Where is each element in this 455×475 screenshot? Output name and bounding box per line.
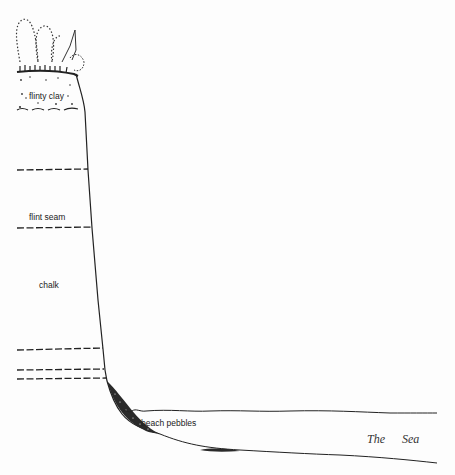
- flint-band-4: [17, 369, 104, 370]
- label-beach-pebbles: beach pebbles: [141, 418, 196, 428]
- cliff-face: [76, 74, 160, 434]
- label-the: The: [367, 432, 385, 447]
- label-chalk: chalk: [39, 280, 59, 290]
- label-sea: Sea: [402, 432, 419, 447]
- flint-band-3: [17, 348, 103, 350]
- label-flint-seam: flint seam: [29, 212, 65, 222]
- flint-seam-line: [17, 227, 93, 228]
- flint-band-5: [17, 378, 106, 379]
- vegetation-icon: [17, 19, 63, 62]
- seabed-pebble-patch: [200, 449, 240, 452]
- flint-bands: [17, 169, 106, 379]
- tree-icon: [62, 30, 76, 62]
- seabed-line: [160, 434, 437, 463]
- flinty-clay-boundary: [17, 108, 78, 110]
- label-flinty-clay: flinty clay: [29, 91, 64, 101]
- flint-band-1: [17, 169, 88, 170]
- cliff-diagram-svg: [0, 0, 455, 475]
- sea-surface-line: [122, 410, 437, 413]
- grass-icon: [70, 55, 84, 71]
- topsoil-line: [17, 65, 78, 76]
- cliff-cross-section-diagram: flinty clay flint seam chalk beach pebbl…: [0, 0, 455, 475]
